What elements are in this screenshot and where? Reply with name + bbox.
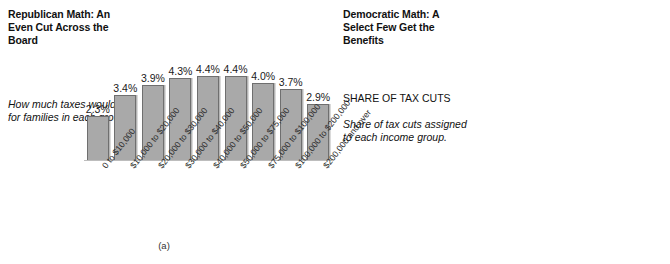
panel-b-title: Democratic Math: A Select Few Get the Be… [343,8,463,48]
panel-b-democratic-math: Democratic Math: A Select Few Get the Be… [335,0,670,264]
bar-rect [87,116,109,160]
bar-value-label: 4.0% [251,70,275,82]
panel-b-legend-heading: SHARE OF TAX CUTS [343,92,465,105]
panel-a-plot-area: 2.3%3.4%3.9%4.3%4.4%4.4%4.0%3.7%2.9% 0 t… [84,0,332,264]
panel-a-subfigure-label: (a) [40,240,288,251]
panel-b-caption: Share of tax cuts assigned to each incom… [343,118,469,144]
bar-value-label: 2.9% [306,91,330,103]
panel-a-republican-math: Republican Math: An Even Cut Across the … [0,0,335,264]
bar-value-label: 4.4% [224,63,248,75]
bar-a-0: 2.3% [87,116,109,160]
bar-value-label: 4.4% [196,63,220,75]
bar-value-label: 3.4% [113,82,137,94]
bar-value-label: 3.7% [279,76,303,88]
bar-value-label: 3.9% [141,72,165,84]
two-panel-bar-figure: Republican Math: An Even Cut Across the … [0,0,670,264]
bar-value-label: 2.3% [86,103,110,115]
bar-value-label: 4.3% [168,65,192,77]
